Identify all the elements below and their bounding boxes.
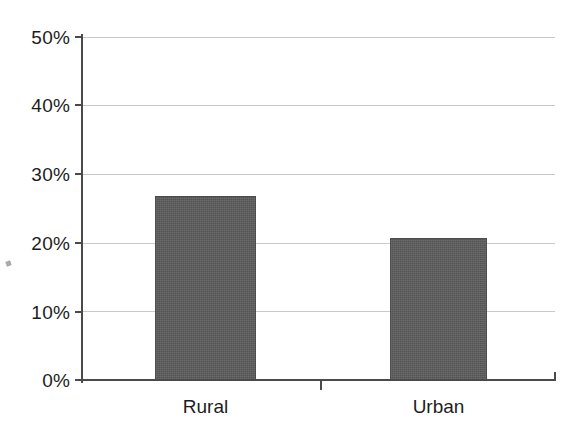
y-tick-label-50: 50%: [8, 28, 70, 47]
y-tick-label-30: 30%: [8, 165, 70, 184]
x-axis-line: [81, 379, 556, 381]
y-axis-line: [81, 34, 83, 383]
x-category-label-urban: Urban: [388, 396, 489, 418]
plot-area: [82, 37, 555, 380]
y-tick-label-0: 0%: [8, 371, 70, 390]
bar-chart: 50% 40% 30% 20% 10% 0% Rural Urban: [0, 0, 584, 447]
y-axis-labels: 50% 40% 30% 20% 10% 0%: [0, 0, 70, 447]
y-tick-label-20: 20%: [8, 234, 70, 253]
bar-urban: [390, 238, 487, 380]
x-tick-mark-middle: [320, 381, 322, 390]
gridline-40: [82, 105, 555, 106]
y-tick-label-10: 10%: [8, 303, 70, 322]
gridline-50: [82, 37, 555, 38]
x-category-label-rural: Rural: [155, 396, 256, 418]
bar-rural: [155, 196, 256, 380]
gridline-30: [82, 174, 555, 175]
y-tick-label-40: 40%: [8, 96, 70, 115]
